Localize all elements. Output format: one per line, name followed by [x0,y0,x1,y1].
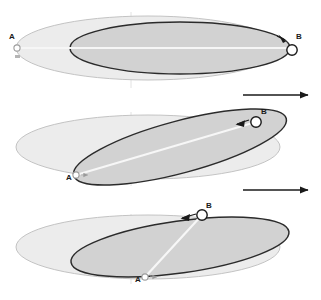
marker-point-b-bottom [197,210,207,220]
marker-point-a-bottom [142,274,148,280]
label-point-a-top: A [9,32,15,41]
label-point-b-top: B [296,32,302,41]
panel-bottom: A B [16,201,293,288]
marker-point-a-middle [73,172,79,178]
label-point-b-bottom: B [206,201,212,210]
label-point-a-bottom: A [135,275,141,284]
label-point-a-middle: A [66,173,72,182]
marker-point-a-top [14,45,20,51]
ellipse-precession-diagram: A B A B A B [0,0,321,300]
point-a-tick-top [15,55,20,58]
marker-point-b-top [287,45,297,55]
panel-middle: A B [16,93,308,200]
label-point-b-middle: B [261,107,267,116]
panel-top: A B [9,12,308,95]
marker-point-b-middle [251,117,261,127]
